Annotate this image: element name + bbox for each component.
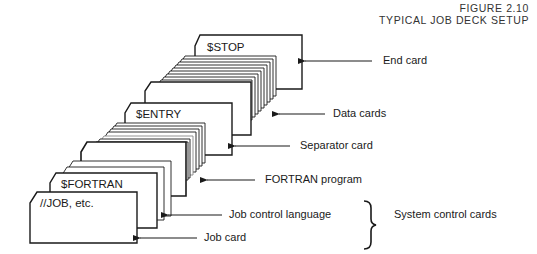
end-card-callout: End card: [383, 54, 427, 66]
entry-card-label: $ENTRY: [136, 108, 181, 120]
data-cards-callout: Data cards: [333, 107, 386, 119]
system-control-brace: [364, 201, 376, 249]
fortran-program-callout: FORTRAN program: [265, 173, 362, 185]
stop-card-label: $STOP: [207, 41, 245, 53]
job-card-label: //JOB, etc.: [40, 197, 94, 209]
job-card: //JOB, etc.: [30, 192, 137, 243]
fortran-card-label: $FORTRAN: [61, 178, 123, 190]
jcl-callout: Job control language: [229, 208, 331, 220]
system-control-cards-callout: System control cards: [394, 208, 497, 220]
separator-card-callout: Separator card: [300, 139, 373, 151]
job-card-callout: Job card: [204, 231, 246, 243]
